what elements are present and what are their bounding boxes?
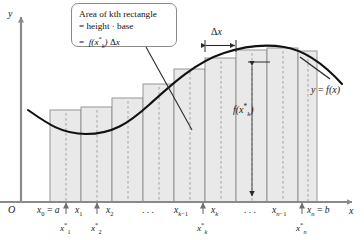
- curve-label: y = f(x): [311, 85, 340, 95]
- origin-label: O: [8, 205, 15, 215]
- callout-equals: =: [79, 37, 84, 47]
- startick-x2: x*2: [91, 222, 102, 235]
- xtick-xk-minus-1: xk−1: [174, 205, 188, 217]
- xtick-xn-minus-1: xn−1: [272, 205, 286, 217]
- xtick-x0: x0 = a: [37, 205, 60, 217]
- delta-x-label: Δx: [211, 27, 222, 37]
- y-axis-label: y: [8, 9, 12, 19]
- xtick-x2: x2: [106, 205, 114, 217]
- riemann-rectangles: [50, 48, 317, 202]
- callout-line-2: = height · base: [79, 20, 171, 32]
- xtick-xk: xk: [211, 205, 218, 217]
- xtick-dots-1: . . .: [142, 205, 154, 215]
- callout-box: Area of kth rectangle = height · base = …: [71, 3, 177, 47]
- startick-xk: x*k: [197, 222, 207, 235]
- xtick-xn: xn = b: [307, 205, 330, 217]
- callout-line-1: Area of kth rectangle: [79, 8, 171, 20]
- height-label: f(x*k): [233, 104, 254, 118]
- x-axis-label: x: [349, 206, 353, 216]
- xtick-x1: x1: [75, 205, 83, 217]
- startick-x1: x*1: [60, 222, 71, 235]
- riemann-sum-figure: Area of kth rectangle = height · base = …: [0, 0, 364, 240]
- startick-xn: x*n: [296, 222, 307, 235]
- callout-line-3: = f(x*k) Δx: [79, 33, 171, 52]
- xtick-dots-2: . . .: [244, 205, 256, 215]
